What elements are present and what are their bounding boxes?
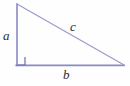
- side-label-c: c: [70, 20, 76, 33]
- side-label-a: a: [3, 29, 10, 42]
- triangle-side-c-line: [17, 4, 125, 65]
- side-label-b: b: [63, 68, 70, 81]
- right-triangle-figure: a b c: [0, 0, 130, 86]
- right-angle-marker-icon: [17, 57, 25, 65]
